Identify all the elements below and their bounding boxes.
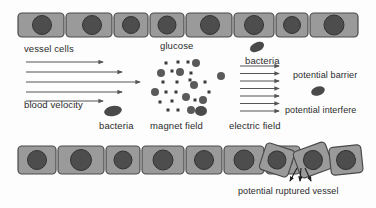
label-electric-field: electric field bbox=[229, 120, 281, 131]
vessel-cell bbox=[58, 146, 104, 174]
vessel-cell bbox=[66, 13, 112, 37]
vessel-cell bbox=[18, 146, 56, 174]
vessel-cell bbox=[18, 13, 64, 37]
glucose-particle bbox=[182, 93, 190, 101]
glucose-particle bbox=[199, 96, 207, 104]
label-vessel-cells: vessel cells bbox=[24, 43, 74, 54]
vessel-cell bbox=[142, 146, 184, 174]
vessel-cell bbox=[106, 146, 140, 174]
vessel-cell bbox=[224, 146, 264, 174]
glucose-particle bbox=[217, 72, 225, 80]
magnet-field-particle bbox=[177, 109, 180, 112]
magnet-field-particle bbox=[208, 91, 211, 94]
glucose-particle bbox=[190, 81, 198, 89]
magnet-field-particle bbox=[194, 99, 197, 102]
label-blood-velocity: blood velocity bbox=[24, 99, 83, 110]
bottom-vessel-cell-row bbox=[18, 141, 363, 179]
electric-field-arrows bbox=[240, 66, 279, 111]
blood-velocity-arrows bbox=[26, 62, 140, 101]
bacteria-potential-barrier bbox=[310, 85, 326, 98]
magnet-field-particle bbox=[187, 61, 190, 64]
label-magnet-field: magnet field bbox=[150, 120, 203, 131]
label-potential-barrier: potential barrier bbox=[293, 70, 357, 80]
vessel-cell bbox=[234, 13, 274, 37]
glucose-particle bbox=[187, 106, 195, 114]
vessel-cell bbox=[114, 13, 148, 37]
glucose-particle bbox=[192, 59, 200, 67]
label-potential-interfere: potential interfere bbox=[285, 105, 356, 115]
vessel-cell bbox=[329, 144, 364, 175]
glucose-particle bbox=[176, 68, 184, 76]
label-potential-ruptured-vessel: potential ruptured vessel bbox=[238, 186, 339, 196]
glucose-particle bbox=[157, 69, 165, 77]
magnet-field-particle bbox=[175, 91, 178, 94]
label-glucose: glucose bbox=[160, 40, 193, 51]
magnet-field-particle bbox=[177, 61, 180, 64]
vessel-cell bbox=[150, 13, 184, 37]
magnet-field-particle bbox=[159, 101, 162, 104]
bacteria-magnet-field bbox=[195, 106, 207, 116]
magnet-field-particle bbox=[176, 81, 179, 84]
magnet-field-particle bbox=[171, 100, 174, 103]
vessel-cell bbox=[186, 146, 222, 174]
magnet-field-particle bbox=[204, 81, 207, 84]
magnet-field-particle bbox=[167, 109, 170, 112]
top-vessel-cell-row bbox=[18, 13, 358, 37]
bacteria-bottom-left bbox=[103, 104, 123, 118]
diagram-canvas: vessel cells glucose bacteria potential … bbox=[0, 0, 376, 208]
bacteria-top bbox=[248, 40, 265, 54]
magnet-field-particle bbox=[171, 70, 174, 73]
magnet-field-particle bbox=[165, 62, 168, 65]
magnet-field-particle bbox=[165, 91, 168, 94]
vessel-cell bbox=[310, 13, 358, 37]
label-bacteria-bottom: bacteria bbox=[99, 120, 134, 131]
magnet-field-particle bbox=[189, 79, 192, 82]
magnet-field-particle bbox=[162, 81, 165, 84]
vessel-cell bbox=[186, 13, 232, 37]
glucose-particle bbox=[151, 88, 159, 96]
magnet-field-particle bbox=[190, 72, 193, 75]
label-bacteria-top: bacteria bbox=[245, 55, 280, 66]
vessel-cell bbox=[276, 13, 308, 37]
glucose-particles bbox=[151, 59, 225, 114]
